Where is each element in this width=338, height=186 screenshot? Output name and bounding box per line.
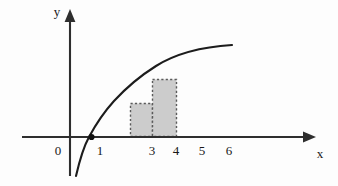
x-tick-label-1: 1 xyxy=(97,143,104,158)
y-axis-group xyxy=(65,9,76,176)
x-tick-label-3: 3 xyxy=(149,143,156,158)
riemann-rectangle-1 xyxy=(131,104,153,137)
figure-canvas: 0 1 3 4 5 6 x y xyxy=(0,0,338,186)
x-axis-arrowhead xyxy=(303,132,316,143)
riemann-rectangle-2 xyxy=(153,80,177,137)
y-axis-arrowhead xyxy=(65,9,76,22)
x-tick-label-4: 4 xyxy=(173,143,180,158)
x-tick-label-0: 0 xyxy=(55,143,62,158)
y-axis-label: y xyxy=(54,4,61,19)
riemann-rectangles-group xyxy=(131,80,177,137)
x-tick-label-6: 6 xyxy=(226,143,233,158)
x-tick-label-5: 5 xyxy=(199,143,206,158)
riemann-sum-figure: 0 1 3 4 5 6 x y xyxy=(0,0,338,186)
x-intercept-point xyxy=(88,134,94,140)
x-axis-label: x xyxy=(317,146,324,161)
